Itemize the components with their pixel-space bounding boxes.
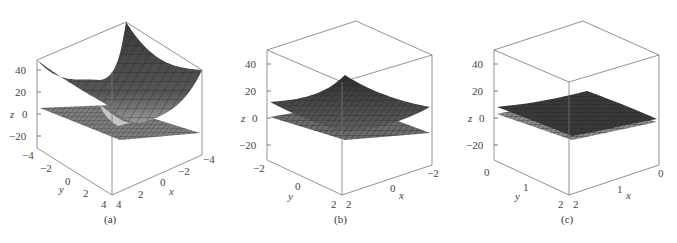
y-tick-a-4: 4 (101, 199, 107, 210)
y-tick-a-0: −4 (22, 150, 34, 161)
x-tick-a-3: −2 (178, 166, 190, 177)
y-tick-c-1: 1 (523, 182, 529, 193)
caption-a: (a) (104, 214, 116, 225)
x-tick-c-2: 0 (658, 168, 664, 179)
y-tick-a-1: −2 (40, 163, 52, 174)
y-tick-b-2: 2 (331, 199, 337, 210)
x-tick-c-1: 1 (617, 184, 623, 195)
z-tick-c-0: 40 (472, 59, 483, 70)
plot-a-canvas (0, 0, 230, 243)
z-tick-c-1: 20 (472, 86, 483, 97)
z-tick-b-2: 0 (252, 113, 258, 124)
z-tick-b-1: 20 (245, 86, 256, 97)
z-tick-a-0: 40 (15, 65, 26, 76)
x-tick-c-0: 2 (573, 199, 579, 210)
z-tick-b-0: 40 (245, 59, 256, 70)
y-axis-label-b: y (288, 191, 293, 202)
panel-a: 40 20 0 −20 z −4 −2 0 2 4 y 4 2 0 −2 −4 … (0, 0, 230, 243)
caption-c: (c) (561, 214, 573, 225)
z-tick-b-3: −20 (239, 140, 256, 151)
y-tick-b-0: −2 (253, 163, 265, 174)
x-tick-a-1: 2 (138, 189, 144, 200)
y-tick-a-3: 2 (83, 188, 89, 199)
x-tick-b-2: −2 (427, 168, 439, 179)
z-tick-a-3: −20 (9, 131, 26, 142)
z-tick-a-2: 0 (22, 109, 28, 120)
x-tick-a-0: 4 (116, 199, 122, 210)
cut-off-caption-line (0, 234, 677, 243)
y-axis-label-a: y (59, 184, 64, 195)
z-axis-label-c: z (468, 113, 472, 124)
y-tick-b-1: 0 (295, 181, 301, 192)
y-tick-a-2: 0 (65, 176, 71, 187)
z-axis-label-a: z (10, 109, 14, 120)
x-axis-label-c: x (626, 190, 631, 201)
y-axis-label-c: y (515, 191, 520, 202)
panel-c: 40 20 0 −20 z 0 1 2 y 2 1 0 x (c) (447, 0, 677, 243)
panel-b: 40 20 0 −20 z −2 0 2 y 2 0 −2 x (b) (220, 0, 450, 243)
z-tick-a-1: 20 (15, 87, 26, 98)
caption-b: (b) (334, 214, 347, 225)
z-axis-label-b: z (241, 113, 245, 124)
x-axis-label-a: x (169, 186, 174, 197)
z-tick-c-2: 0 (479, 113, 485, 124)
y-tick-c-0: 0 (484, 167, 490, 178)
x-tick-a-2: 0 (160, 177, 166, 188)
x-tick-b-0: 2 (346, 199, 352, 210)
x-tick-b-1: 0 (390, 183, 396, 194)
z-tick-c-3: −20 (466, 140, 483, 151)
x-tick-a-4: −4 (203, 154, 215, 165)
y-tick-c-2: 2 (558, 199, 564, 210)
x-axis-label-b: x (399, 190, 404, 201)
